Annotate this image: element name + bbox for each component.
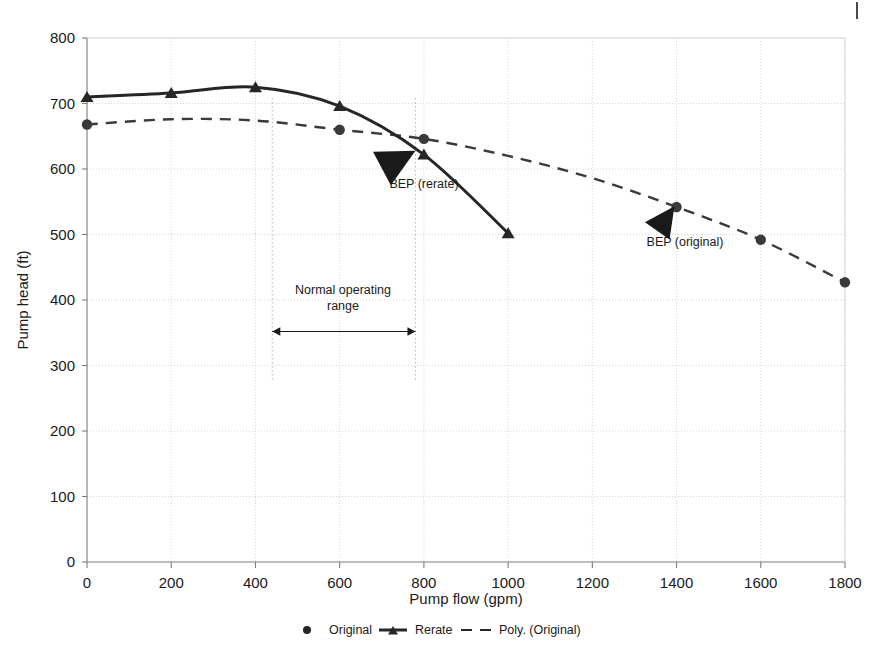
original-data-marker xyxy=(419,134,429,144)
y-tick-label: 500 xyxy=(50,226,75,243)
x-tick-label: 1000 xyxy=(491,574,524,591)
bep-rerate-label: BEP (rerate) xyxy=(389,177,458,191)
y-tick-label: 700 xyxy=(50,95,75,112)
x-tick-label: 1200 xyxy=(576,574,609,591)
legend-item: Rerate xyxy=(379,623,453,637)
y-tick-label: 600 xyxy=(50,160,75,177)
legend-item: Poly. (Original) xyxy=(461,623,581,637)
x-tick-label: 1800 xyxy=(828,574,861,591)
chart-legend: OriginalReratePoly. (Original) xyxy=(303,623,581,637)
original-data-marker xyxy=(334,125,344,135)
legend-marker-circle-icon xyxy=(303,626,311,634)
legend-item: Original xyxy=(303,623,372,637)
legend-label: Poly. (Original) xyxy=(499,623,581,637)
y-axis-title: Pump head (ft) xyxy=(14,250,31,349)
original-data-marker xyxy=(82,119,92,129)
y-tick-label: 400 xyxy=(50,291,75,308)
y-tick-label: 200 xyxy=(50,422,75,439)
original-data-marker xyxy=(756,235,766,245)
x-tick-label: 800 xyxy=(411,574,436,591)
x-axis-title: Pump flow (gpm) xyxy=(409,590,522,607)
pump-curve-chart-figure: 020040060080010001200140016001800 010020… xyxy=(0,0,888,660)
x-axis-tick-labels: 020040060080010001200140016001800 xyxy=(83,574,862,591)
x-tick-label: 200 xyxy=(159,574,184,591)
y-tick-label: 0 xyxy=(67,553,75,570)
x-tick-label: 0 xyxy=(83,574,91,591)
y-tick-label: 100 xyxy=(50,488,75,505)
legend-label: Original xyxy=(329,623,372,637)
y-axis-tick-labels: 0100200300400500600700800 xyxy=(50,29,75,570)
y-tick-label: 800 xyxy=(50,29,75,46)
original-data-marker xyxy=(840,277,850,287)
bep-original-label: BEP (original) xyxy=(647,235,724,249)
x-tick-label: 1600 xyxy=(744,574,777,591)
x-tick-label: 1400 xyxy=(660,574,693,591)
normal-range-label-line1: Normal operating xyxy=(295,283,391,297)
x-tick-label: 600 xyxy=(327,574,352,591)
scan-artifact-mark xyxy=(856,2,858,19)
chart-canvas: 020040060080010001200140016001800 010020… xyxy=(0,0,888,660)
normal-range-label-line2: range xyxy=(327,299,359,313)
y-tick-label: 300 xyxy=(50,357,75,374)
x-tick-label: 400 xyxy=(243,574,268,591)
legend-label: Rerate xyxy=(415,623,453,637)
